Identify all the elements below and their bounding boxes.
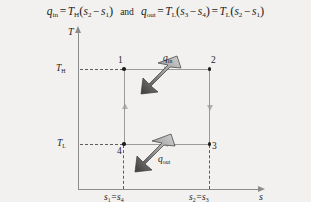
q-in-annotation-label: qin [163, 53, 172, 63]
dashed-leader-s1-s4 [123, 145, 124, 189]
T-L-symbol: T [165, 5, 171, 17]
q-out-annotation-label: qout [158, 154, 170, 164]
x-axis-line [78, 189, 260, 190]
minus-sign-1: − [91, 5, 101, 17]
heat-input-arrow-icon [137, 54, 183, 100]
y-tick-label-TH: TH [56, 63, 66, 73]
s2-subscript: 2 [88, 11, 92, 19]
ts-diagram: T s 1 2 3 4 TH TL s1=s4 s2=s3 [0, 24, 311, 202]
figure-page: qin=TH(s2−s1)andqout=TL(s3−s4)=TL(s2−s1)… [0, 0, 311, 202]
process-direction-arrow-2-3-icon [207, 105, 213, 111]
q-out-symbol: q [141, 5, 147, 17]
state-point-3-label: 3 [212, 141, 217, 151]
dashed-leader-s2-s3 [209, 145, 210, 189]
process-direction-arrow-4-1-icon [122, 103, 128, 109]
minus-sign-2: − [188, 5, 198, 17]
minus-sign-3: − [242, 5, 252, 17]
state-point-1-label: 1 [118, 55, 123, 65]
s1b-subscript: 1 [256, 11, 260, 19]
T-L-subscript: L [172, 11, 176, 19]
equals-sign-1: = [58, 5, 68, 17]
q-out-subscript: out [147, 11, 156, 19]
q-in-symbol: q [47, 5, 53, 17]
s2b-subscript: 2 [239, 11, 243, 19]
x-axis-label: s [259, 191, 263, 202]
conjunction-and: and [113, 7, 141, 17]
state-point-4-label: 4 [117, 146, 122, 156]
T-H-subscript: H [74, 11, 79, 19]
y-axis-line [78, 32, 79, 190]
s3-symbol: s [180, 5, 184, 17]
q-in-subscript: in [53, 11, 59, 19]
state-point-2-dot [208, 67, 212, 71]
close-paren-3: ) [260, 4, 264, 18]
state-point-2-label: 2 [211, 55, 216, 65]
s4-subscript: 4 [202, 11, 206, 19]
x-tick-label-s2-s3: s2=s3 [189, 192, 209, 202]
y-axis-arrow-icon [75, 26, 81, 33]
x-tick-label-s1-s4: s1=s4 [104, 192, 124, 202]
s1-subscript: 1 [105, 11, 109, 19]
y-tick-label-TL: TL [57, 138, 66, 148]
T-L2-symbol: T [219, 5, 225, 17]
s3-subscript: 3 [185, 11, 189, 19]
heat-transfer-equation: qin=TH(s2−s1)andqout=TL(s3−s4)=TL(s2−s1) [0, 4, 311, 19]
state-point-4-dot [122, 142, 126, 146]
y-axis-label: T [68, 26, 74, 37]
equals-sign-2: = [156, 5, 166, 17]
state-point-1-dot [122, 67, 126, 71]
dashed-leader-TL [80, 144, 123, 145]
T-L2-subscript: L [226, 11, 230, 19]
equals-sign-3: = [210, 5, 220, 17]
state-point-3-dot [208, 142, 212, 146]
dashed-leader-TH [80, 69, 123, 70]
